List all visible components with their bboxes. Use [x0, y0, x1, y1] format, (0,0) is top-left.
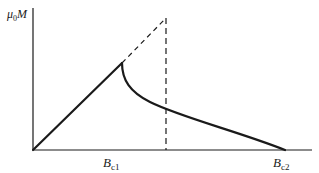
- decay-curve: [122, 63, 285, 150]
- bc1-subscript: c1: [111, 162, 120, 172]
- y-axis-label: μ0M: [7, 7, 27, 23]
- bc1-label: Bc1: [103, 155, 119, 172]
- magnetization-diagram: [0, 0, 319, 173]
- bc2-base: B: [273, 155, 281, 170]
- bc2-subscript: c2: [281, 162, 290, 172]
- magnetization-symbol: M: [17, 7, 27, 21]
- bc2-label: Bc2: [273, 155, 289, 172]
- bc1-base: B: [103, 155, 111, 170]
- dashed-extrapolation: [122, 18, 166, 63]
- linear-rise-line: [33, 63, 122, 150]
